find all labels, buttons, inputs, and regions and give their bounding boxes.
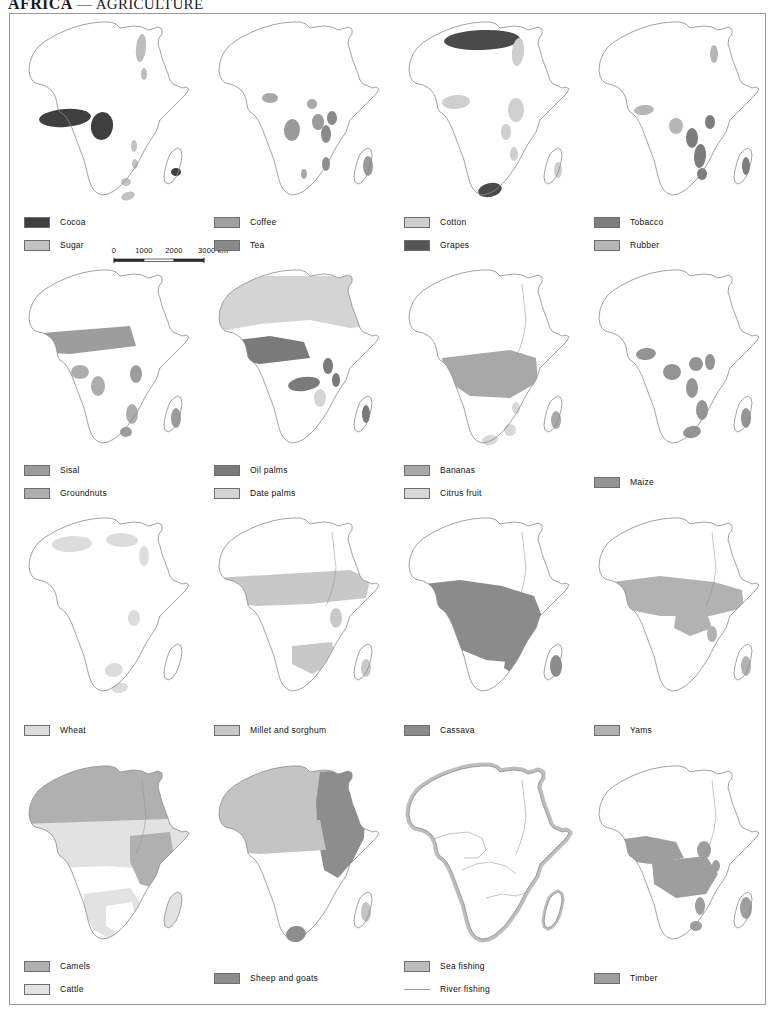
africa-map-tobacco-rubber	[580, 14, 770, 214]
legend-wheat: Wheat	[24, 722, 200, 745]
legend-label: Sheep and goats	[250, 973, 318, 983]
legend-color-swatch	[214, 217, 240, 228]
legend-label: Timber	[630, 973, 658, 983]
legend-item: Cotton	[404, 214, 580, 230]
title-topic: AGRICULTURE	[96, 0, 204, 12]
legend-cotton-grapes: CottonGrapes	[404, 214, 580, 260]
legend-item: Tobacco	[594, 214, 770, 230]
legend-label: River fishing	[440, 984, 490, 994]
legend-coffee-tea: CoffeeTea	[214, 214, 390, 260]
map-cell-millet-sorghum: Millet and sorghum	[200, 510, 390, 758]
africa-map-sisal-groundnuts	[10, 262, 200, 462]
legend-item: River fishing	[404, 981, 580, 997]
legend-label: Millet and sorghum	[250, 725, 326, 735]
legend-color-swatch	[594, 240, 620, 251]
legend-label: Cotton	[440, 217, 467, 227]
legend-label: Sea fishing	[440, 961, 485, 971]
legend-label: Cattle	[60, 984, 84, 994]
africa-map-timber	[580, 758, 770, 958]
legend-color-swatch	[214, 725, 240, 736]
africa-map-sheep-goats	[200, 758, 390, 958]
map-cell-cassava: Cassava	[390, 510, 580, 758]
legend-color-swatch	[214, 488, 240, 499]
legend-color-swatch	[404, 465, 430, 476]
legend-bananas-citrus: BananasCitrus fruit	[404, 462, 580, 508]
legend-item: Citrus fruit	[404, 485, 580, 501]
legend-color-swatch	[24, 488, 50, 499]
legend-color-swatch	[404, 240, 430, 251]
legend-label: Camels	[60, 961, 90, 971]
legend-label: Tea	[250, 240, 264, 250]
legend-color-swatch	[404, 488, 430, 499]
title-dash: —	[73, 0, 96, 12]
legend-label: Rubber	[630, 240, 659, 250]
africa-map-millet-sorghum	[200, 510, 390, 710]
scale-tick: 2000	[165, 246, 183, 255]
map-cell-tobacco-rubber: TobaccoRubber	[580, 14, 770, 262]
legend-label: Yams	[630, 725, 652, 735]
legend-color-swatch	[24, 465, 50, 476]
legend-sheep-goats: Sheep and goats	[214, 970, 390, 993]
legend-label: Sugar	[60, 240, 84, 250]
legend-item: Wheat	[24, 722, 200, 738]
map-cell-cocoa-sugar: CocoaSugar0100020003000 km	[10, 14, 200, 262]
legend-item: Sea fishing	[404, 958, 580, 974]
legend-color-swatch	[214, 973, 240, 984]
legend-color-swatch	[594, 217, 620, 228]
legend-label: Date palms	[250, 488, 296, 498]
scale-tick: 1000	[135, 246, 153, 255]
legend-label: Oil palms	[250, 465, 288, 475]
legend-label: Sisal	[60, 465, 80, 475]
legend-color-swatch	[404, 217, 430, 228]
legend-label: Maize	[630, 477, 654, 487]
legend-color-swatch	[214, 240, 240, 251]
legend-yams: Yams	[594, 722, 770, 745]
legend-item: Sisal	[24, 462, 200, 478]
legend-item: Rubber	[594, 237, 770, 253]
legend-fishing: Sea fishingRiver fishing	[404, 958, 580, 1004]
legend-label: Groundnuts	[60, 488, 107, 498]
legend-oil-date-palms: Oil palmsDate palms	[214, 462, 390, 508]
title-region: AFRICA	[8, 0, 73, 12]
legend-color-swatch	[594, 477, 620, 488]
legend-color-swatch	[24, 961, 50, 972]
legend-color-swatch	[24, 984, 50, 995]
legend-tobacco-rubber: TobaccoRubber	[594, 214, 770, 260]
legend-item: Coffee	[214, 214, 390, 230]
legend-item: Maize	[594, 474, 770, 490]
africa-map-bananas-citrus	[390, 262, 580, 462]
legend-color-swatch	[24, 240, 50, 251]
map-cell-cotton-grapes: CottonGrapes	[390, 14, 580, 262]
africa-map-fishing	[390, 758, 580, 958]
legend-timber: Timber	[594, 970, 770, 993]
africa-map-oil-date-palms	[200, 262, 390, 462]
map-cell-sheep-goats: Sheep and goats	[200, 758, 390, 1006]
legend-color-swatch	[214, 465, 240, 476]
map-cell-wheat: Wheat	[10, 510, 200, 758]
africa-map-maize	[580, 262, 770, 462]
legend-sisal-groundnuts: SisalGroundnuts	[24, 462, 200, 508]
map-cell-fishing: Sea fishingRiver fishing	[390, 758, 580, 1006]
legend-label: Bananas	[440, 465, 475, 475]
legend-item: Cattle	[24, 981, 200, 997]
africa-map-wheat	[10, 510, 200, 710]
legend-item: Cassava	[404, 722, 580, 738]
scale-tick: 0	[112, 246, 116, 255]
map-cell-timber: Timber	[580, 758, 770, 1006]
africa-map-cotton-grapes	[390, 14, 580, 214]
legend-color-swatch	[24, 725, 50, 736]
map-cell-coffee-tea: CoffeeTea	[200, 14, 390, 262]
map-cell-bananas-citrus: BananasCitrus fruit	[390, 262, 580, 510]
map-grid: CocoaSugar0100020003000 kmCoffeeTeaCotto…	[10, 14, 765, 1004]
legend-color-swatch	[594, 725, 620, 736]
legend-item: Tea	[214, 237, 390, 253]
africa-map-camels-cattle	[10, 758, 200, 958]
legend-color-swatch	[404, 725, 430, 736]
map-cell-oil-date-palms: Oil palmsDate palms	[200, 262, 390, 510]
legend-color-swatch	[404, 961, 430, 972]
legend-color-swatch	[24, 217, 50, 228]
atlas-page: AFRICA—AGRICULTURE CocoaSugar01000200030…	[0, 0, 775, 1012]
legend-label: Cassava	[440, 725, 475, 735]
map-cell-camels-cattle: CamelsCattle	[10, 758, 200, 1006]
legend-line-swatch	[404, 984, 430, 995]
